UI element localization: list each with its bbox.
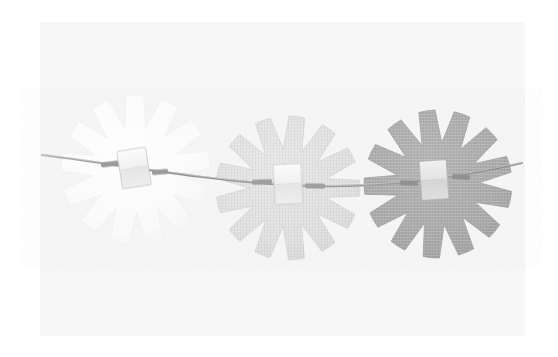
figure-root: Three notched discs threaded on a wire P…: [0, 0, 558, 357]
clamp-block-left: Clamp block on left disc: [117, 147, 152, 189]
ferrule-mid-b: [305, 183, 325, 188]
ferrule-mid-a: [252, 179, 272, 185]
clamp-block-middle: Clamp block on middle disc: [273, 163, 303, 204]
clamp-block-right: Clamp block on right disc: [419, 160, 449, 201]
figure-image: Three notched discs threaded on a wire P…: [0, 0, 558, 357]
ferrule-right-a: [400, 180, 418, 186]
